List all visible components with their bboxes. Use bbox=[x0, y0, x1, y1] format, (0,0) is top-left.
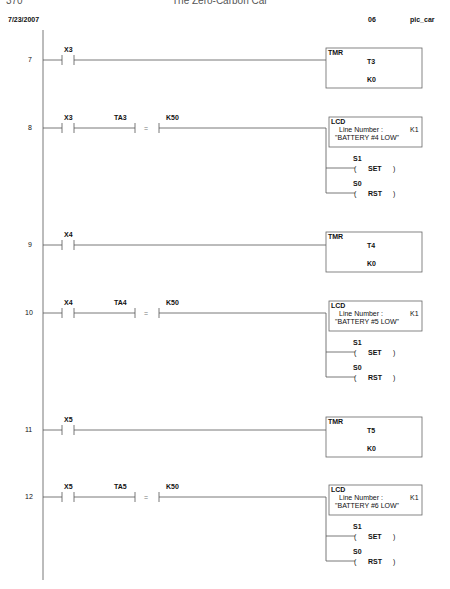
rung-9: 9 X4 TMR T4 K0 bbox=[28, 231, 422, 272]
compare-left: TA4 bbox=[114, 299, 127, 306]
coil-open-paren: ( bbox=[354, 165, 357, 173]
contact-label: X5 bbox=[64, 483, 73, 490]
compare-left: TA3 bbox=[114, 114, 127, 121]
timer-address: T4 bbox=[367, 242, 375, 249]
lcd-line-label: Line Number : bbox=[339, 310, 383, 317]
contact-label: X3 bbox=[64, 114, 73, 121]
compare-operator: = bbox=[144, 310, 148, 317]
svg-text:(: ( bbox=[354, 374, 357, 382]
rung-number: 12 bbox=[25, 493, 33, 500]
coil-action: RST bbox=[368, 374, 383, 381]
rung-number: 8 bbox=[28, 124, 32, 131]
rung-12: 12 X5 TA5 = K50 LCD Line Number : K1 "BA… bbox=[25, 483, 422, 566]
lcd-title: LCD bbox=[331, 486, 345, 493]
coil-action: RST bbox=[368, 558, 383, 565]
timer-type: TMR bbox=[328, 233, 343, 240]
contact-label: X3 bbox=[64, 46, 73, 53]
lcd-line-label: Line Number : bbox=[339, 126, 383, 133]
svg-text:): ) bbox=[393, 190, 395, 198]
coil-action: RST bbox=[368, 190, 383, 197]
coil-address: S1 bbox=[353, 155, 362, 162]
lcd-message: "BATTERY #6 LOW" bbox=[335, 502, 400, 509]
timer-preset: K0 bbox=[367, 260, 376, 267]
svg-text:): ) bbox=[393, 558, 395, 566]
lcd-line-value: K1 bbox=[410, 126, 419, 133]
coil-address: S1 bbox=[353, 339, 362, 346]
coil-address: S0 bbox=[353, 548, 362, 555]
svg-text:(: ( bbox=[354, 349, 357, 357]
rung-number: 11 bbox=[25, 426, 32, 433]
coil-action: SET bbox=[368, 349, 382, 356]
svg-text:(: ( bbox=[354, 190, 357, 198]
timer-preset: K0 bbox=[367, 445, 376, 452]
coil-action: SET bbox=[368, 165, 382, 172]
compare-operator: = bbox=[144, 494, 148, 501]
svg-text:(: ( bbox=[354, 558, 357, 566]
compare-right: K50 bbox=[166, 114, 179, 121]
contact-label: X4 bbox=[64, 231, 73, 238]
coil-address: S0 bbox=[353, 364, 362, 371]
rung-number: 9 bbox=[28, 241, 32, 248]
lcd-message: "BATTERY #5 LOW" bbox=[335, 318, 400, 325]
coil-address: S1 bbox=[353, 523, 362, 530]
lcd-title: LCD bbox=[331, 302, 345, 309]
rung-10: 10 X4 TA4 = K50 LCD Line Number : K1 "BA… bbox=[25, 299, 422, 382]
timer-type: TMR bbox=[328, 49, 343, 56]
rung-number: 10 bbox=[25, 309, 33, 316]
lcd-line-value: K1 bbox=[410, 310, 419, 317]
timer-address: T3 bbox=[367, 58, 375, 65]
rung-8: 8 X3 TA3 = K50 LCD Line Number : K1 "BAT… bbox=[28, 114, 422, 198]
lcd-title: LCD bbox=[331, 118, 345, 125]
svg-text:(: ( bbox=[354, 533, 357, 541]
lcd-line-label: Line Number : bbox=[339, 494, 383, 501]
svg-text:): ) bbox=[393, 533, 395, 541]
lcd-message: "BATTERY #4 LOW" bbox=[335, 134, 400, 141]
compare-right: K50 bbox=[166, 299, 179, 306]
compare-right: K50 bbox=[166, 483, 179, 490]
rung-7: 7 X3 TMR T3 K0 bbox=[28, 46, 422, 88]
svg-text:): ) bbox=[393, 349, 395, 357]
ladder-diagram: 7 X3 TMR T3 K0 8 X3 TA3 = K50 LCD Line N… bbox=[0, 0, 450, 589]
timer-address: T5 bbox=[367, 427, 375, 434]
svg-text:): ) bbox=[393, 374, 395, 382]
lcd-line-value: K1 bbox=[410, 494, 419, 501]
compare-left: TA5 bbox=[114, 483, 127, 490]
contact-label: X4 bbox=[64, 299, 73, 306]
rung-11: 11 X5 TMR T5 K0 bbox=[25, 416, 422, 457]
contact-label: X5 bbox=[64, 416, 73, 423]
timer-preset: K0 bbox=[367, 76, 376, 83]
coil-address: S0 bbox=[353, 180, 362, 187]
rung-number: 7 bbox=[28, 56, 32, 63]
timer-type: TMR bbox=[328, 418, 343, 425]
coil-action: SET bbox=[368, 533, 382, 540]
compare-operator: = bbox=[144, 125, 148, 132]
coil-close-paren: ) bbox=[393, 165, 395, 173]
